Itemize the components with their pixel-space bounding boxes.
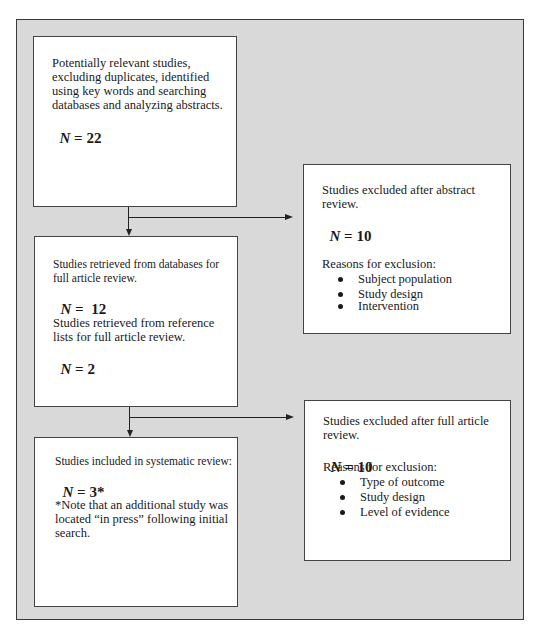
reason-item: Subject population [322,273,508,286]
node-retrieved-references-text: Studies retrieved from reference lists f… [53,316,235,344]
node-included-text: Studies included in systematic review: [55,454,237,468]
bullet-icon [338,277,343,282]
bullet-icon [338,304,343,309]
node-excluded-full-reasons: Type of outcome Study design Level of ev… [324,475,510,520]
arrow-down-icon [126,229,132,236]
node-included-note: *Note that an additional study was locat… [55,498,237,540]
reason-item: Type of outcome [324,475,510,490]
node-identified-count: N = 22 [52,114,101,146]
node-included-count: N = 3* [55,468,104,500]
node-excluded-full-reasons-label: Reasons for exclusion: [323,460,509,474]
node-excluded-abstract-text: Studies excluded after abstract review. [322,183,508,211]
connector-identified-right [128,217,285,218]
reason-text: Level of evidence [360,505,450,519]
reason-item: Intervention [322,300,508,313]
n-value: = 22 [70,130,101,146]
node-retrieved-references-count: N = 2 [53,345,95,377]
n-variable: N [330,228,341,244]
reason-text: Study design [360,490,425,504]
reason-text: Intervention [358,299,419,313]
reason-text: Subject population [358,272,452,286]
node-excluded-abstract-reasons-label: Reasons for exclusion: [322,257,508,271]
reason-item: Level of evidence [324,505,510,520]
n-variable: N [60,130,71,146]
bullet-icon [340,495,345,500]
reason-item: Study design [324,490,510,505]
node-excluded-abstract-count: N = 10 [322,212,371,244]
node-retrieved-databases-text: Studies retrieved from databases for ful… [53,257,235,285]
connector-retrieved-down [129,407,130,431]
n-value: = 10 [340,228,371,244]
bullet-icon [340,480,345,485]
n-value: = 12 [71,301,106,317]
n-variable: N [61,301,72,317]
connector-identified-down [128,207,129,231]
arrow-right-icon [286,414,294,420]
node-retrieved-databases-count: N = 12 [53,285,106,317]
bullet-icon [338,292,343,297]
node-identified-text: Potentially relevant studies, excluding … [52,56,232,112]
n-variable: N [61,361,72,377]
reason-text: Type of outcome [360,475,445,489]
n-value: = 2 [71,361,95,377]
arrow-right-icon [285,214,293,220]
connector-retrieved-right [129,417,286,418]
arrow-down-icon [127,430,133,437]
node-excluded-abstract-reasons: Subject population Study design Interven… [322,273,508,313]
node-excluded-full-text: Studies excluded after full article revi… [323,414,509,442]
bullet-icon [340,510,345,515]
